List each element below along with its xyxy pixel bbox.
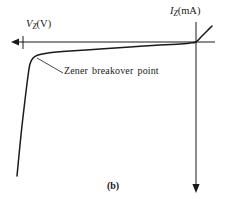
horizontal-axis-unit: (V): [37, 18, 52, 29]
zener-characteristic-curve: [17, 26, 212, 176]
zener-characteristic-figure: VZ(V) IZ(mA) Zener breakover point (b): [0, 0, 226, 205]
vertical-axis-unit: (mA): [178, 5, 201, 16]
vertical-axis-label: IZ(mA): [170, 6, 200, 18]
horizontal-axis-label: VZ(V): [26, 19, 51, 31]
annotation-leader-line: [37, 58, 63, 73]
zener-breakover-point-label: Zener breakover point: [64, 66, 159, 76]
figure-caption: (b): [0, 181, 226, 191]
left-arrowhead-icon: [11, 39, 19, 46]
